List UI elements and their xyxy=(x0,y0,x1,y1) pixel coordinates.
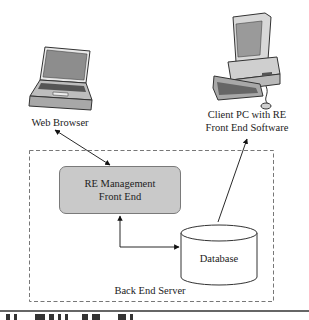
web-browser-label: Web Browser xyxy=(20,116,100,129)
edge-frontend-database xyxy=(120,216,179,247)
back-end-server-label: Back End Server xyxy=(100,284,200,297)
re-management-front-end-box: RE Management Front End xyxy=(59,166,181,214)
client-pc-label: Client PC with RE Front End Software xyxy=(190,108,304,134)
re-management-label-line1: RE Management xyxy=(85,177,156,190)
client-pc-label-line2: Front End Software xyxy=(190,121,304,134)
desktop-computer-icon xyxy=(213,13,280,109)
re-management-label-line2: Front End xyxy=(99,190,141,203)
database-label: Database xyxy=(181,252,257,265)
edge-database-client xyxy=(218,139,247,222)
diagram-canvas: Web Browser Client PC with RE Front End … xyxy=(0,0,309,320)
figure-caption-clipped xyxy=(0,314,309,320)
laptop-icon xyxy=(29,47,92,110)
client-pc-label-line1: Client PC with RE xyxy=(190,108,304,121)
diagram-graphics xyxy=(0,0,309,320)
edge-browser-frontend xyxy=(55,130,110,165)
